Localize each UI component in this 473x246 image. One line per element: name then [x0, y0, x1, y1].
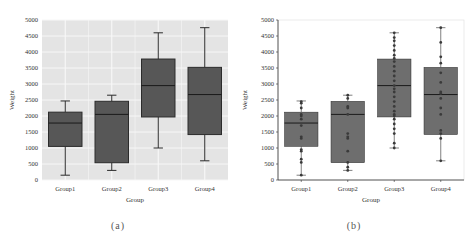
data-point	[300, 113, 303, 116]
data-point	[300, 124, 303, 127]
data-point	[393, 75, 396, 78]
data-point	[346, 166, 349, 169]
y-tick-label: 500	[264, 160, 274, 167]
x-tick-label: Group1	[291, 185, 311, 192]
data-point	[300, 174, 303, 177]
data-point	[346, 132, 349, 135]
y-tick-label: 2000	[25, 112, 38, 119]
data-point	[439, 81, 442, 84]
x-tick-label: Group3	[384, 185, 404, 192]
iqr-box	[188, 67, 221, 134]
data-point	[393, 57, 396, 60]
data-point	[393, 142, 396, 145]
data-point	[393, 60, 396, 63]
data-point	[393, 65, 396, 68]
iqr-box	[331, 101, 364, 162]
y-tick-label: 4000	[261, 48, 274, 55]
data-point	[393, 39, 396, 42]
data-point	[393, 132, 396, 135]
iqr-box	[142, 59, 175, 117]
data-point	[439, 97, 442, 100]
data-point	[439, 129, 442, 132]
y-tick-label: 3500	[261, 64, 274, 71]
data-point	[393, 123, 396, 126]
data-point	[439, 113, 442, 116]
data-point	[346, 94, 349, 97]
y-tick-label: 4000	[25, 48, 38, 55]
data-point	[346, 169, 349, 172]
data-point	[393, 100, 396, 103]
y-tick-label: 1500	[261, 128, 274, 135]
data-point	[393, 87, 396, 90]
data-point	[439, 159, 442, 162]
x-tick-label: Group4	[431, 185, 452, 192]
y-tick-label: 1000	[25, 144, 38, 151]
data-point	[439, 26, 442, 29]
x-tick-label: Group2	[338, 185, 358, 192]
data-point	[346, 150, 349, 153]
data-point	[393, 118, 396, 121]
iqr-box	[95, 101, 128, 162]
y-tick-label: 4500	[25, 32, 38, 39]
y-tick-label: 2000	[261, 112, 274, 119]
data-point	[439, 41, 442, 44]
data-point	[393, 49, 396, 52]
y-tick-label: 5000	[261, 16, 274, 23]
data-point	[439, 132, 442, 135]
data-point	[300, 158, 303, 161]
data-point	[439, 107, 442, 110]
y-tick-label: 500	[28, 160, 38, 167]
data-point	[346, 161, 349, 164]
data-point	[346, 135, 349, 138]
x-tick-label: Group3	[148, 185, 168, 192]
data-point	[393, 147, 396, 150]
data-point	[439, 62, 442, 65]
data-point	[393, 54, 396, 57]
y-tick-label: 1500	[25, 128, 38, 135]
data-point	[300, 161, 303, 164]
y-tick-label: 1000	[261, 144, 274, 151]
y-tick-label: 2500	[25, 96, 38, 103]
data-point	[393, 79, 396, 82]
data-point	[393, 127, 396, 130]
y-axis-title: Weight	[241, 90, 249, 110]
data-point	[300, 118, 303, 121]
y-tick-label: 3500	[25, 64, 38, 71]
data-point	[393, 105, 396, 108]
data-point	[439, 91, 442, 94]
data-point	[393, 113, 396, 116]
x-tick-label: Group1	[55, 185, 75, 192]
iqr-box	[424, 67, 457, 134]
data-point	[300, 148, 303, 151]
y-tick-label: 2500	[261, 96, 274, 103]
data-point	[393, 110, 396, 113]
caption-a: (a)	[0, 220, 236, 231]
data-point	[300, 107, 303, 110]
x-axis-title: Group	[126, 196, 144, 204]
x-tick-label: Group4	[195, 185, 216, 192]
y-tick-label: 3000	[261, 80, 274, 87]
data-point	[439, 55, 442, 58]
y-tick-label: 0	[271, 176, 274, 183]
data-point	[300, 135, 303, 138]
box-group2	[331, 94, 364, 172]
y-tick-label: 4500	[261, 32, 274, 39]
y-tick-label: 5000	[25, 16, 38, 23]
data-point	[393, 31, 396, 34]
iqr-box	[49, 112, 82, 146]
x-tick-label: Group2	[102, 185, 122, 192]
data-point	[393, 95, 396, 98]
data-point	[346, 113, 349, 116]
panel-a: 0500100015002000250030003500400045005000…	[0, 0, 236, 246]
y-tick-label: 0	[35, 176, 38, 183]
caption-b: (b)	[236, 220, 472, 231]
data-point	[393, 84, 396, 87]
data-point	[439, 71, 442, 74]
data-point	[393, 91, 396, 94]
data-point	[393, 70, 396, 73]
y-axis-title: Weight	[8, 90, 16, 110]
box-group2	[95, 95, 128, 170]
data-point	[346, 97, 349, 100]
data-point	[300, 100, 303, 103]
data-point	[393, 44, 396, 47]
